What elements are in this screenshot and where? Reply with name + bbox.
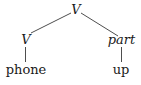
left-node-v: V — [21, 32, 32, 47]
edge-root-to-v — [31, 13, 71, 33]
leaf-word-up: up — [113, 62, 130, 77]
leaf-word-phone: phone — [6, 62, 47, 77]
syntax-tree: V V part phone up — [0, 0, 141, 85]
right-node-part: part — [108, 32, 136, 47]
root-node-v: V — [71, 2, 82, 17]
